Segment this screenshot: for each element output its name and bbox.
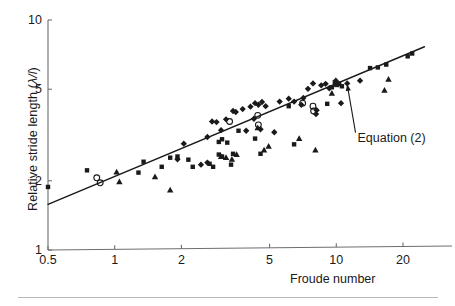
data-point-square [287,104,291,108]
data-point-square [168,155,172,159]
data-point-square [376,65,380,69]
data-point-triangle [152,173,158,179]
data-point-triangle [312,147,318,153]
x-axis-tick-label: 5 [266,253,273,267]
data-point-diamond [310,80,316,86]
x-axis-spine [48,246,452,250]
x-axis-label: Froude number [290,272,375,286]
data-point-square [211,165,215,169]
data-point-diamond [243,128,249,134]
data-point-triangle [296,135,302,141]
data-point-triangle [385,76,391,82]
data-point-diamond [305,86,311,92]
figure-scatter-plot: Relative stride length (λ/l) Froude numb… [0,0,455,306]
data-point-diamond [276,98,282,104]
data-point-square [141,160,145,164]
data-point-diamond [174,156,180,162]
data-point-square [405,54,409,58]
data-point-triangle [167,187,173,193]
x-axis-tick-label: 1 [111,253,118,267]
data-point-square [186,157,190,161]
y-axis-tick-label: 2 [14,174,42,188]
y-axis-label-text: Relative stride length ( [26,84,40,211]
data-point-triangle [381,87,387,93]
data-point-diamond [291,98,297,104]
x-axis-tick-label: 10 [329,253,343,267]
data-point-square [160,165,164,169]
x-axis-tick-label: 20 [396,253,410,267]
data-point-diamond [298,102,304,108]
data-point-diamond [213,119,219,125]
data-point-square [85,168,89,172]
data-point-square [229,162,233,166]
y-axis-label-close: ) [26,67,40,71]
y-axis-tick-label: 1 [14,243,42,257]
data-point-diamond [198,161,204,167]
data-point-diamond [357,77,363,83]
plot-canvas [0,0,455,306]
data-point-square [325,102,329,106]
data-point-diamond [240,106,246,112]
data-point-square [220,137,224,141]
data-point-square [368,66,372,70]
equation-2-arrow-line [347,84,355,132]
data-point-triangle [116,178,122,184]
data-point-open-circle [227,119,233,125]
figure-footer-rule [18,297,438,298]
y-axis-tick-label: 10 [14,13,42,27]
data-point-square [236,129,240,133]
data-point-square [191,165,195,169]
data-point-square [46,185,50,189]
y-axis-label: Relative stride length (λ/l) [26,34,40,244]
data-point-square [292,142,296,146]
data-point-square [410,51,414,55]
data-point-diamond [286,95,292,101]
equation-2-annotation-label: Equation (2) [358,131,426,145]
y-axis-tick-label: 5 [14,82,42,96]
x-axis-tick-label: 2 [178,253,185,267]
data-point-diamond [262,103,268,109]
data-point-square [384,62,388,66]
data-point-triangle [265,143,271,149]
data-point-square [225,140,229,144]
data-point-diamond [338,100,344,106]
data-point-square [136,170,140,174]
data-point-diamond [247,103,253,109]
data-point-diamond [271,129,277,135]
equation-2-fit-line [48,47,424,205]
data-point-triangle [113,169,119,175]
data-point-square [253,136,257,140]
